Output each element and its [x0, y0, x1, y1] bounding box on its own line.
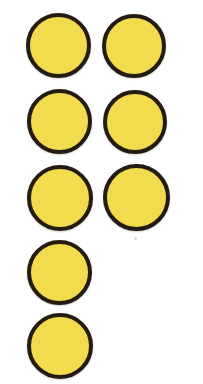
counter-circle[interactable] [27, 240, 92, 305]
counter-circle[interactable] [103, 164, 170, 231]
counter-canvas [0, 0, 203, 384]
counter-circle[interactable] [26, 13, 91, 78]
counter-circle[interactable] [27, 89, 92, 154]
image-speck [134, 237, 137, 240]
counter-circle[interactable] [102, 14, 166, 78]
counter-circle[interactable] [27, 165, 93, 231]
counter-circle[interactable] [27, 313, 93, 379]
counter-circle[interactable] [103, 90, 167, 154]
